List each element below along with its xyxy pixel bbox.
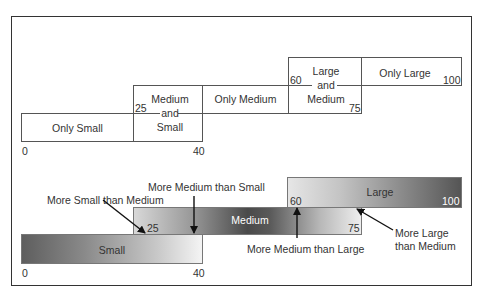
arrow-more-small-than-medium <box>103 200 145 233</box>
annotation-arrows <box>0 0 485 300</box>
arrow-more-large-than-medium <box>357 209 393 230</box>
